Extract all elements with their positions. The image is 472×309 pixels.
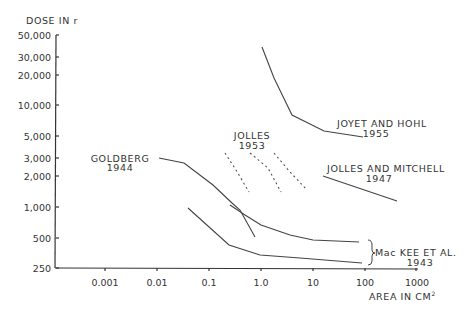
annotation-goldberg: GOLDBERG 1944 xyxy=(91,153,150,173)
series-jolles-1953-b xyxy=(250,153,281,192)
annotation-joyet-hohl: JOYET AND HOHL 1955 xyxy=(336,118,427,139)
x-axis xyxy=(55,268,418,269)
svg-text:1944: 1944 xyxy=(107,162,134,173)
y-tick-500: 500 xyxy=(33,233,51,244)
y-tick-5000: 5,000 xyxy=(24,131,51,142)
y-tick-20000: 20,000 xyxy=(18,70,51,81)
series-mackee-lower xyxy=(188,208,362,263)
x-tick-10: 10 xyxy=(307,277,319,288)
svg-text:1953: 1953 xyxy=(239,140,266,151)
series-jolles-1953-c xyxy=(274,153,307,190)
x-axis-title: AREA IN CM2 xyxy=(369,290,436,302)
x-tick-100: 100 xyxy=(356,277,374,288)
x-tick-labels: 0.001 0.01 0.1 1.0 10 100 1000 xyxy=(91,277,429,288)
y-tick-1000: 1,000 xyxy=(24,202,51,213)
y-axis-title: DOSE IN r xyxy=(26,15,78,26)
y-tick-10000: 10,000 xyxy=(18,100,51,111)
svg-text:1943: 1943 xyxy=(407,257,434,268)
y-tick-50000: 50,000 xyxy=(18,30,51,41)
series-jolles-1953-a xyxy=(225,153,249,192)
annotation-jolles-mitchell: JOLLES AND MITCHELL 1947 xyxy=(326,163,445,184)
series-mackee-upper xyxy=(230,205,359,242)
x-tick-0.01: 0.01 xyxy=(146,277,167,288)
y-tick-250: 250 xyxy=(33,263,51,274)
x-tick-0.1: 0.1 xyxy=(201,277,216,288)
svg-text:1955: 1955 xyxy=(363,128,390,139)
y-tick-30000: 30,000 xyxy=(18,52,51,63)
x-tick-1.0: 1.0 xyxy=(253,277,268,288)
annotation-mackee: Mac KEE ET AL. 1943 xyxy=(375,247,457,268)
svg-text:1947: 1947 xyxy=(366,173,393,184)
y-tick-2000: 2,000 xyxy=(24,171,51,182)
y-tick-labels: 50,000 30,000 20,000 10,000 5,000 3,000 … xyxy=(18,30,51,274)
y-tick-3000: 3,000 xyxy=(24,153,51,164)
y-axis xyxy=(55,35,56,268)
mackee-bracket xyxy=(368,240,375,265)
annotation-jolles-1953: JOLLES 1953 xyxy=(233,130,271,151)
axes xyxy=(55,35,418,269)
x-tick-0.001: 0.001 xyxy=(91,277,118,288)
chart-canvas: 50,000 30,000 20,000 10,000 5,000 3,000 … xyxy=(0,0,472,309)
x-tick-1000: 1000 xyxy=(405,277,429,288)
